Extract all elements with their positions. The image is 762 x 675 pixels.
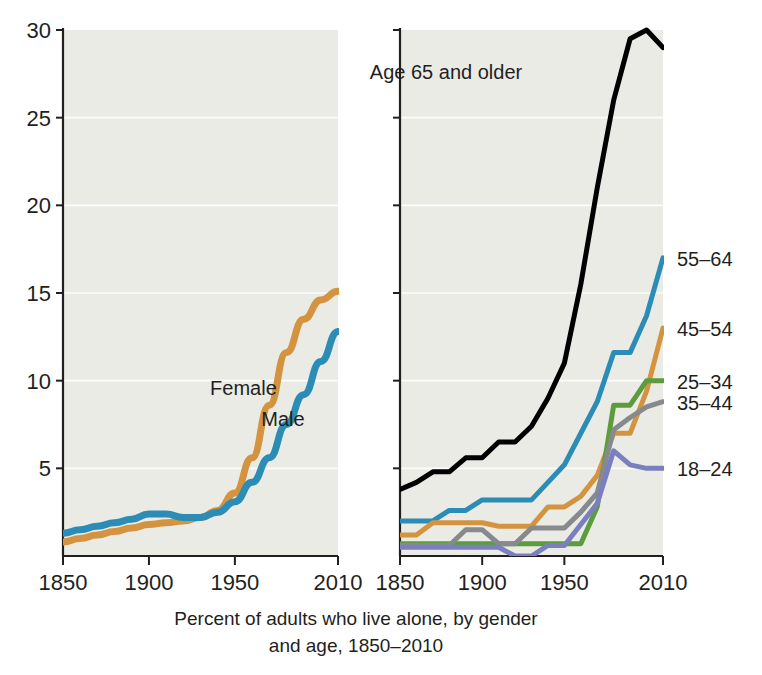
legend-label-55-64: 55–64 bbox=[677, 248, 733, 270]
x-tick-label-1850: 1850 bbox=[376, 570, 425, 595]
x-tick-label-1950: 1950 bbox=[540, 570, 589, 595]
x-tick-label-2010: 2010 bbox=[639, 570, 688, 595]
caption-line-2: and age, 1850–2010 bbox=[269, 635, 443, 656]
chart-caption: Percent of adults who live alone, by gen… bbox=[174, 608, 538, 656]
y-tick-label-10: 10 bbox=[27, 369, 51, 394]
x-tick-label-1850: 1850 bbox=[39, 570, 88, 595]
legend-label-18-24: 18–24 bbox=[677, 458, 733, 480]
legend-label-25-34: 25–34 bbox=[677, 371, 733, 393]
legend-label-35-44: 35–44 bbox=[677, 392, 733, 414]
y-tick-label-30: 30 bbox=[27, 18, 51, 43]
y-tick-label-20: 20 bbox=[27, 193, 51, 218]
chart-panel-gender: 510152025301850190019502010FemaleMale bbox=[27, 18, 363, 595]
x-tick-label-1900: 1900 bbox=[124, 570, 173, 595]
x-tick-label-1950: 1950 bbox=[210, 570, 259, 595]
series-label-male: Male bbox=[261, 408, 304, 430]
x-tick-label-1900: 1900 bbox=[458, 570, 507, 595]
dual-line-chart: 510152025301850190019502010FemaleMale185… bbox=[0, 0, 762, 675]
y-tick-label-25: 25 bbox=[27, 106, 51, 131]
y-tick-label-15: 15 bbox=[27, 281, 51, 306]
x-tick-label-2010: 2010 bbox=[314, 570, 363, 595]
series-label-age-65-and-older: Age 65 and older bbox=[370, 61, 523, 83]
figure-container: 510152025301850190019502010FemaleMale185… bbox=[0, 0, 762, 675]
series-label-female: Female bbox=[210, 377, 277, 399]
chart-panel-age: 1850190019502010Age 65 and older55–6445–… bbox=[370, 28, 733, 595]
legend-label-45-54: 45–54 bbox=[677, 318, 733, 340]
y-tick-label-5: 5 bbox=[39, 456, 51, 481]
caption-line-1: Percent of adults who live alone, by gen… bbox=[174, 608, 538, 629]
